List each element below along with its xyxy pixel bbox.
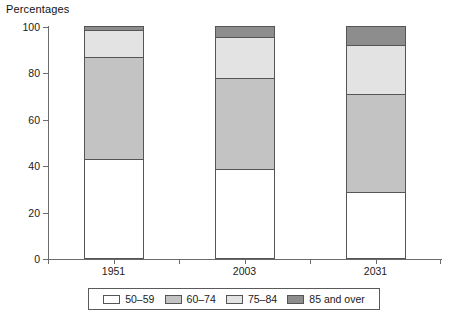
y-axis-tick-label: 60 <box>28 114 40 125</box>
bar-segment[interactable] <box>346 192 406 259</box>
y-axis-tick-label: 0 <box>34 254 40 265</box>
legend-swatch-icon <box>287 295 304 304</box>
x-axis-tick <box>440 259 441 264</box>
bar-segment[interactable] <box>346 26 406 46</box>
x-axis-tick-label: 1951 <box>102 265 125 277</box>
bar-segment[interactable] <box>215 26 275 38</box>
x-axis-tick <box>376 259 377 264</box>
x-axis-tick-label: 2031 <box>364 265 387 277</box>
legend-item-label: 60–74 <box>187 293 216 305</box>
y-axis-tick <box>43 213 48 214</box>
chart-legend: 50–5960–7475–8485 and over <box>88 288 380 310</box>
y-axis-tick <box>43 27 48 28</box>
bar-segment[interactable] <box>346 45 406 95</box>
y-axis-line <box>48 26 49 260</box>
x-axis-tick <box>114 259 115 264</box>
x-axis-tick <box>48 259 49 264</box>
y-axis-tick-label: 40 <box>28 161 40 172</box>
legend-item-label: 75–84 <box>248 293 277 305</box>
y-axis-tick <box>43 73 48 74</box>
page-title: Percentages <box>6 3 69 16</box>
x-axis-tick <box>310 259 311 264</box>
legend-item[interactable]: 85 and over <box>287 293 364 305</box>
legend-item[interactable]: 75–84 <box>226 293 277 305</box>
y-axis-tick-label: 100 <box>22 22 40 33</box>
bar-segment[interactable] <box>215 78 275 170</box>
y-axis-tick-label: 80 <box>28 68 40 79</box>
chart-figure: Percentages 020406080100 195120032031 50… <box>0 0 449 316</box>
y-axis-tick-label: 20 <box>28 207 40 218</box>
x-axis-tick <box>179 259 180 264</box>
legend-item-label: 85 and over <box>309 293 364 305</box>
plot-area: 020406080100 195120032031 <box>48 27 441 259</box>
bar-segment[interactable] <box>84 159 144 259</box>
legend-swatch-icon <box>165 295 182 304</box>
bar-segment[interactable] <box>84 26 144 31</box>
x-axis-tick <box>245 259 246 264</box>
x-axis-tick-label: 2003 <box>233 265 256 277</box>
y-axis-tick <box>43 166 48 167</box>
bar-segment[interactable] <box>84 30 144 58</box>
legend-item-label: 50–59 <box>125 293 154 305</box>
legend-swatch-icon <box>103 295 120 304</box>
y-axis-tick <box>43 120 48 121</box>
bar-segment[interactable] <box>346 94 406 193</box>
legend-item[interactable]: 60–74 <box>165 293 216 305</box>
legend-swatch-icon <box>226 295 243 304</box>
legend-item[interactable]: 50–59 <box>103 293 154 305</box>
bar-segment[interactable] <box>84 57 144 160</box>
bar-segment[interactable] <box>215 169 275 259</box>
bar-segment[interactable] <box>215 37 275 79</box>
